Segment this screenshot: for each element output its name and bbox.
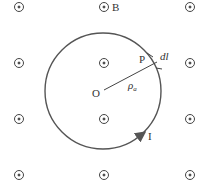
element-label: dl xyxy=(160,50,169,62)
field-out-of-page-icon xyxy=(15,59,24,68)
current-direction-arrow-icon xyxy=(137,133,144,138)
current-label: I xyxy=(148,130,152,142)
field-out-of-page-icon xyxy=(100,115,109,124)
center-label: O xyxy=(92,87,100,99)
field-out-of-page-icon xyxy=(15,3,24,12)
field-out-of-page-icon xyxy=(186,59,195,68)
point-label: P xyxy=(139,53,145,65)
field-label: B xyxy=(112,1,119,13)
current-loop xyxy=(45,33,161,149)
field-out-of-page-icon xyxy=(15,115,24,124)
radius-label: ρa xyxy=(127,79,137,93)
field-out-of-page-icon xyxy=(186,171,195,180)
field-out-of-page-icon xyxy=(100,3,109,12)
field-out-of-page-icon xyxy=(100,171,109,180)
field-out-of-page-icon xyxy=(15,171,24,180)
field-out-of-page-icon xyxy=(186,3,195,12)
diagram-canvas: B O P dl ρa I xyxy=(0,0,211,182)
field-out-of-page-icon xyxy=(100,59,109,68)
magnetic-field-grid xyxy=(15,3,195,180)
field-out-of-page-icon xyxy=(186,115,195,124)
